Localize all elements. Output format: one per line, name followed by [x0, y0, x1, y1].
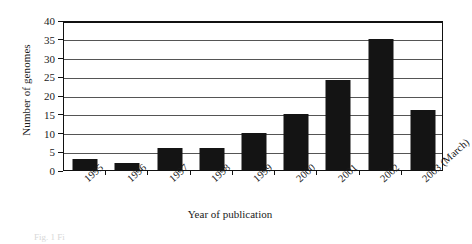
- bar-slot: [402, 22, 444, 170]
- y-axis-tick-label: 35: [11, 34, 55, 45]
- x-axis-title: Year of publication: [0, 208, 460, 220]
- plot-area: [63, 21, 443, 171]
- x-axis-tick-mark: [232, 171, 233, 175]
- y-axis-tick-label: 15: [11, 109, 55, 120]
- bar-slot: [106, 22, 148, 170]
- x-axis-tick-mark: [147, 171, 148, 175]
- y-axis-tick-label: 5: [11, 147, 55, 158]
- bar-slot: [191, 22, 233, 170]
- bar[interactable]: [326, 80, 351, 170]
- bar-slot: [275, 22, 317, 170]
- figure-caption: Fig. 1 Fi: [34, 232, 65, 243]
- bar-slot: [148, 22, 190, 170]
- bar[interactable]: [284, 114, 309, 170]
- x-axis-tick-mark: [359, 171, 360, 175]
- bar-slot: [317, 22, 359, 170]
- y-axis-tick-label: 30: [11, 53, 55, 64]
- y-axis-tick-label: 20: [11, 91, 55, 102]
- bar-slot: [360, 22, 402, 170]
- x-axis-tick-mark: [316, 171, 317, 175]
- x-axis-tick-mark: [190, 171, 191, 175]
- y-axis-tick-label: 10: [11, 128, 55, 139]
- y-axis-tick-label: 40: [11, 16, 55, 27]
- y-axis-tick-label: 0: [11, 166, 55, 177]
- bar[interactable]: [368, 39, 393, 170]
- x-axis-tick-mark: [401, 171, 402, 175]
- x-axis-tick-mark: [105, 171, 106, 175]
- bar-slot: [233, 22, 275, 170]
- y-axis-tick-label: 25: [11, 72, 55, 83]
- bar-slot: [64, 22, 106, 170]
- x-axis-tick-mark: [274, 171, 275, 175]
- bar[interactable]: [410, 110, 435, 170]
